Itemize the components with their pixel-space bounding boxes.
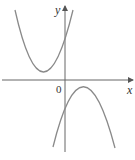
lower-parabola-curve: [53, 87, 115, 148]
graph-canvas: y 0 x: [0, 0, 135, 160]
origin-label: 0: [56, 83, 62, 95]
y-axis-label: y: [54, 3, 61, 17]
x-axis-label: x: [126, 83, 133, 97]
upper-parabola-curve: [15, 10, 73, 72]
